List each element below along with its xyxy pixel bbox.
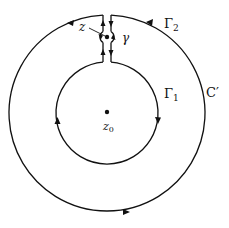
label-gamma1: Γ1: [164, 86, 179, 103]
label-c-prime: C′: [206, 85, 219, 100]
point-z0: [105, 110, 109, 114]
arrow-up-left-lower: [101, 49, 106, 55]
arrow-outer-upper-left: [67, 20, 74, 26]
label-z0: z0: [102, 120, 114, 134]
arrow-down-right-lower: [109, 50, 114, 56]
arrow-gamma-right: [111, 34, 116, 40]
arrow-inner-right: [155, 117, 161, 124]
point-z: [105, 35, 109, 39]
contour-diagram: z γ Γ2 Γ1 C′ z0: [0, 0, 229, 228]
label-gamma2: Γ2: [164, 16, 179, 33]
arrow-down-right-upper: [109, 21, 114, 27]
label-z: z: [78, 20, 86, 34]
arrow-outer-bottom: [123, 209, 130, 215]
arrow-up-left-upper: [101, 20, 106, 26]
label-gamma: γ: [122, 31, 130, 45]
arrow-inner-left: [55, 117, 61, 124]
